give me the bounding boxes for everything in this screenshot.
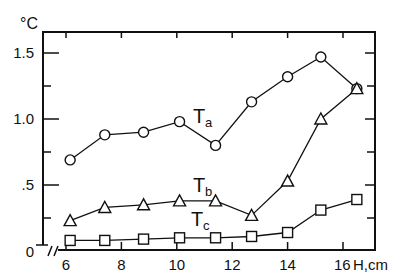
x-tick-label: 8 bbox=[117, 256, 125, 273]
svg-text:a: a bbox=[205, 115, 213, 130]
x-axis-label: H,cm bbox=[353, 256, 388, 273]
x-tick-label: 12 bbox=[224, 256, 241, 273]
y-tick-label: 1.5 bbox=[13, 44, 34, 61]
svg-text:b: b bbox=[205, 184, 212, 199]
x-tick-label: 6 bbox=[62, 256, 70, 273]
x-tick-label: 14 bbox=[279, 256, 296, 273]
y-tick-label: 1.0 bbox=[13, 110, 34, 127]
line-chart: 1.51.0.50°C6810121416H,cmTaTbTc bbox=[0, 0, 406, 278]
y-axis-label: °C bbox=[20, 15, 38, 32]
x-tick-label: 16 bbox=[334, 256, 351, 273]
series-label: T bbox=[193, 174, 205, 196]
series-label: T bbox=[193, 105, 205, 127]
x-tick-label: 10 bbox=[168, 256, 185, 273]
svg-text:c: c bbox=[203, 218, 210, 233]
y-tick-label: .5 bbox=[21, 176, 34, 193]
series-label: T bbox=[191, 208, 203, 230]
svg-text:0: 0 bbox=[26, 243, 34, 260]
